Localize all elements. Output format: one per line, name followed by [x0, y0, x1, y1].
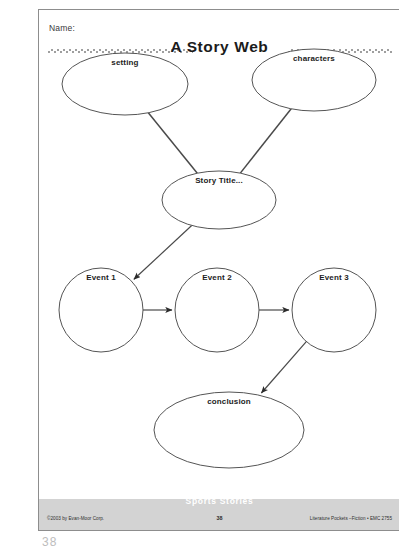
page-footer: Sports Stories ©2003 by Evan-Moor Corp. …	[39, 485, 399, 530]
edge-story-title-to-event-1	[134, 226, 192, 280]
node-label-setting: setting	[65, 58, 185, 67]
edge-characters-to-story-title	[240, 109, 291, 173]
node-label-event-1: Event 1	[41, 273, 161, 282]
node-label-characters: characters	[254, 54, 374, 63]
story-web-diagram	[39, 10, 399, 531]
node-label-event-3: Event 3	[274, 273, 394, 282]
worksheet-page: Name: A Story Web settingcharactersStory…	[38, 9, 399, 531]
scan-artifact-marks: 38	[42, 535, 57, 549]
node-label-conclusion: conclusion	[169, 397, 289, 406]
footer-banner-title: Sports Stories	[39, 496, 399, 506]
node-label-story-title: Story Title...	[159, 176, 279, 185]
edge-setting-to-story-title	[148, 113, 197, 173]
edge-event-3-to-conclusion	[261, 342, 306, 393]
node-label-event-2: Event 2	[157, 273, 277, 282]
footer-source: Literature Pockets –Fiction • EMC 2755	[310, 516, 392, 521]
